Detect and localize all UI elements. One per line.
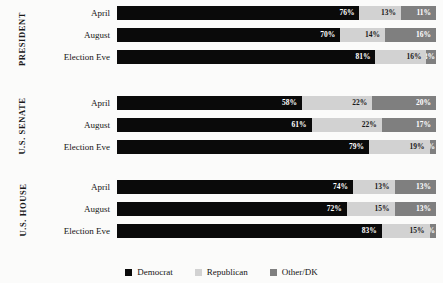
segment-value-label: 13% — [416, 183, 431, 191]
segment-value-label: 83% — [362, 227, 377, 235]
segment-value-label: 16% — [416, 31, 431, 39]
row-label: April — [44, 183, 117, 192]
bar-segment-democrat: 61% — [117, 118, 312, 132]
segment-value-label: 81% — [355, 53, 370, 61]
chart-rows-president: April 76% 13% 11% August — [44, 0, 443, 68]
bar-segment-republican: 15% — [382, 224, 430, 238]
group-caption-cell-house: U.S. HOUSE — [0, 174, 44, 246]
row-label: August — [44, 31, 117, 40]
segment-value-label: 20% — [416, 99, 431, 107]
segment-value-label: 2% — [430, 143, 435, 151]
row-label: August — [44, 121, 117, 130]
legend-item-other: Other/DK — [270, 268, 318, 277]
chart-row: April 58% 22% 20% — [44, 92, 443, 114]
legend-label: Democrat — [137, 268, 172, 277]
bar-segment-democrat: 74% — [117, 180, 353, 194]
bar-segment-other: 3% — [426, 50, 436, 64]
bar-segment-republican: 22% — [302, 96, 372, 110]
bar-segment-republican: 19% — [369, 140, 430, 154]
bar-segment-other: 17% — [382, 118, 436, 132]
segment-value-label: 15% — [375, 205, 390, 213]
legend-item-democrat: Democrat — [125, 268, 172, 277]
group-caption-label: U.S. SENATE — [17, 97, 27, 154]
bar-segment-republican: 22% — [312, 118, 382, 132]
bar-segment-other: 20% — [372, 96, 436, 110]
stacked-bar: 76% 13% 11% — [117, 6, 436, 20]
bar-segment-republican: 13% — [359, 6, 400, 20]
segment-value-label: 13% — [416, 205, 431, 213]
chart-row: Election Eve 79% 19% 2% — [44, 136, 443, 158]
bar-segment-democrat: 83% — [117, 224, 382, 238]
bar-segment-republican: 15% — [347, 202, 395, 216]
legend-swatch-icon — [270, 269, 277, 276]
segment-value-label: 17% — [416, 121, 431, 129]
chart-row: April 74% 13% 13% — [44, 176, 443, 198]
group-caption-cell-president: PRESIDENT — [0, 0, 44, 78]
stacked-bar: 81% 16% 3% — [117, 50, 436, 64]
group-divider — [0, 162, 443, 174]
bar-segment-democrat: 81% — [117, 50, 375, 64]
segment-value-label: 61% — [292, 121, 307, 129]
bar-segment-other: 11% — [401, 6, 436, 20]
bar-segment-other: 16% — [385, 28, 436, 42]
segment-value-label: 14% — [365, 31, 380, 39]
segment-value-label: 2% — [430, 227, 435, 235]
segment-value-label: 79% — [349, 143, 364, 151]
stacked-bar: 70% 14% 16% — [117, 28, 436, 42]
group-caption-president: PRESIDENT — [0, 0, 44, 78]
segment-value-label: 22% — [362, 121, 377, 129]
segment-value-label: 76% — [339, 9, 354, 17]
chart-group-house: U.S. HOUSE April 74% 13% 13% — [0, 174, 443, 246]
row-label: April — [44, 9, 117, 18]
stacked-bar: 74% 13% 13% — [117, 180, 436, 194]
bar-segment-democrat: 72% — [117, 202, 347, 216]
group-caption-house: U.S. HOUSE — [0, 174, 44, 246]
chart-group-senate: U.S. SENATE April 58% 22% 20% — [0, 90, 443, 162]
legend-swatch-icon — [125, 269, 132, 276]
bar-segment-republican: 13% — [353, 180, 394, 194]
stacked-bar-chart: PRESIDENT April 76% 13% 11% — [0, 0, 443, 283]
chart-row: August 61% 22% 17% — [44, 114, 443, 136]
segment-value-label: 72% — [327, 205, 342, 213]
stacked-bar: 79% 19% 2% — [117, 140, 436, 154]
group-caption-label: U.S. HOUSE — [17, 184, 27, 237]
bar-segment-other: 2% — [430, 224, 436, 238]
segment-value-label: 16% — [406, 53, 421, 61]
bar-segment-republican: 16% — [375, 50, 426, 64]
segment-value-label: 74% — [333, 183, 348, 191]
chart-row: April 76% 13% 11% — [44, 2, 443, 24]
bar-segment-democrat: 76% — [117, 6, 359, 20]
chart-row: August 70% 14% 16% — [44, 24, 443, 46]
chart-row: Election Eve 81% 16% 3% — [44, 46, 443, 68]
chart-row: August 72% 15% 13% — [44, 198, 443, 220]
stacked-bar: 83% 15% 2% — [117, 224, 436, 238]
stacked-bar: 58% 22% 20% — [117, 96, 436, 110]
segment-value-label: 15% — [410, 227, 425, 235]
legend-item-republican: Republican — [195, 268, 248, 277]
row-label: August — [44, 205, 117, 214]
bar-segment-other: 13% — [395, 202, 436, 216]
legend-label: Republican — [207, 268, 248, 277]
group-caption-label: PRESIDENT — [17, 12, 27, 66]
segment-value-label: 13% — [375, 183, 390, 191]
legend-swatch-icon — [195, 269, 202, 276]
chart-rows-senate: April 58% 22% 20% August — [44, 90, 443, 158]
segment-value-label: 11% — [416, 9, 431, 17]
chart-row: Election Eve 83% 15% 2% — [44, 220, 443, 242]
row-label: Election Eve — [44, 53, 117, 62]
bar-segment-democrat: 58% — [117, 96, 302, 110]
legend-label: Other/DK — [282, 268, 318, 277]
group-divider — [0, 78, 443, 90]
segment-value-label: 13% — [381, 9, 396, 17]
bar-segment-other: 2% — [430, 140, 436, 154]
stacked-bar: 61% 22% 17% — [117, 118, 436, 132]
bar-segment-democrat: 70% — [117, 28, 340, 42]
segment-value-label: 19% — [410, 143, 425, 151]
stacked-bar: 72% 15% 13% — [117, 202, 436, 216]
segment-value-label: 3% — [426, 53, 435, 61]
bar-segment-republican: 14% — [340, 28, 385, 42]
group-caption-senate: U.S. SENATE — [0, 90, 44, 162]
segment-value-label: 70% — [320, 31, 335, 39]
segment-value-label: 58% — [282, 99, 297, 107]
segment-value-label: 22% — [352, 99, 367, 107]
